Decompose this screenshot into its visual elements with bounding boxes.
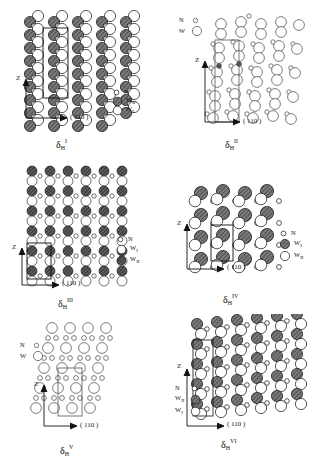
legend-label-n: N xyxy=(124,89,129,96)
panel-delta-H-V: Z ( 110 ) N W δHV xyxy=(0,314,161,472)
legend-1: N WII WI xyxy=(112,88,135,115)
caption-sup: V xyxy=(69,444,73,450)
legend-row: WI xyxy=(112,106,135,115)
axis-label-h-2: ( 110 ) xyxy=(243,117,261,125)
caption-sup: II xyxy=(234,138,238,144)
panel-caption-6: δHVI xyxy=(221,438,236,451)
legend-row: WII xyxy=(175,393,201,405)
swatch-w-icon xyxy=(191,25,203,37)
swatch-w2-icon xyxy=(279,250,291,262)
legend-row: WII xyxy=(116,255,139,266)
axis-label-z-2: Z xyxy=(195,56,199,64)
legend-row: WII xyxy=(279,250,303,262)
legend-row: WI xyxy=(175,405,201,417)
panel-delta-H-III: Z ( 110 ) N WI WII δHIII xyxy=(0,157,161,314)
legend-label-n: N xyxy=(175,385,187,392)
legend-label-w1: WI xyxy=(130,245,138,253)
legend-row: W xyxy=(20,350,44,362)
legend-label-w1: WI xyxy=(294,240,302,248)
legend-label-w2: WII xyxy=(175,395,187,403)
axis-label-h-1: ( 110 ) xyxy=(70,113,88,121)
panel-caption-2: δHII xyxy=(225,138,238,151)
legend-2: N W xyxy=(179,16,203,37)
swatch-n-icon xyxy=(191,16,200,25)
panel-delta-H-I: Z ( 110 ) N WII WI δHI xyxy=(0,0,161,157)
swatch-n-icon xyxy=(116,235,125,244)
axis-label-h-6: ( 110 ) xyxy=(227,420,245,428)
legend-label-n: N xyxy=(20,342,29,349)
legend-row: W xyxy=(179,25,203,37)
swatch-w-icon xyxy=(32,350,44,362)
swatch-w1-icon xyxy=(279,238,291,250)
panel-caption-5: δHV xyxy=(60,444,73,457)
axis-label-z-4: Z xyxy=(177,219,181,227)
caption-sub: H xyxy=(228,300,232,306)
swatch-w2-icon xyxy=(190,394,201,405)
structure-diagram-1 xyxy=(0,0,161,157)
panel-delta-H-VI: Z ( 110 ) N WII WI δHVI xyxy=(161,314,322,472)
swatch-w2-icon xyxy=(116,255,127,266)
axis-label-z-5: Z xyxy=(34,380,38,388)
panel-delta-H-IV: Z ( 110 ) N WI WII δHIV xyxy=(161,157,322,314)
caption-sub: H xyxy=(63,304,67,310)
legend-6: N WII WI xyxy=(175,384,201,417)
legend-row: N xyxy=(20,341,44,350)
axis-label-h-5: ( 110 ) xyxy=(80,421,98,429)
legend-row: WI xyxy=(279,238,303,250)
axis-label-h-4: ( 110 ) xyxy=(227,263,245,271)
axis-label-z-6: Z xyxy=(177,362,181,370)
caption-sub: H xyxy=(230,145,234,151)
axis-label-z-3: Z xyxy=(12,243,16,251)
legend-5: N W xyxy=(20,341,44,362)
legend-label-w1: WI xyxy=(175,407,187,415)
caption-sup: IV xyxy=(232,293,238,299)
legend-label-w1: WI xyxy=(126,106,134,114)
atom-group-3 xyxy=(27,166,127,286)
panel-caption-1: δHI xyxy=(56,138,67,151)
swatch-n-icon xyxy=(279,229,288,238)
legend-label-w2: WII xyxy=(130,256,139,264)
caption-sub: H xyxy=(65,451,69,457)
panel-caption-3: δHIII xyxy=(58,297,73,310)
legend-row: WI xyxy=(116,244,139,255)
caption-sup: VI xyxy=(230,438,236,444)
caption-sup: III xyxy=(67,297,73,303)
legend-label-n: N xyxy=(179,17,188,24)
atom-group-4 xyxy=(189,184,281,272)
atom-group-2 xyxy=(205,14,305,125)
axis-label-z-1: Z xyxy=(16,74,20,82)
legend-row: N xyxy=(116,235,139,244)
legend-label-w: W xyxy=(179,28,188,35)
swatch-w1-icon xyxy=(190,406,201,417)
legend-4: N WI WII xyxy=(279,229,303,262)
caption-sup: I xyxy=(65,138,67,144)
structure-diagram-5 xyxy=(0,314,161,472)
legend-3: N WI WII xyxy=(116,235,139,266)
caption-sub: H xyxy=(61,145,65,151)
panel-delta-H-II: Z ( 110 ) N W δHII xyxy=(161,0,322,157)
swatch-n-icon xyxy=(32,341,41,350)
atom-group-6 xyxy=(191,314,306,420)
swatch-w1-icon xyxy=(116,244,127,255)
panel-caption-4: δHIV xyxy=(223,293,238,306)
swatch-w1-icon xyxy=(112,105,123,116)
legend-row: N xyxy=(179,16,203,25)
caption-sub: H xyxy=(226,445,230,451)
legend-label-n: N xyxy=(291,230,296,237)
legend-label-w: W xyxy=(20,353,29,360)
swatch-n-icon xyxy=(190,384,199,393)
legend-label-w2: WII xyxy=(294,252,303,260)
axis-label-h-3: ( 110 ) xyxy=(62,279,80,287)
legend-row: N xyxy=(279,229,303,238)
legend-row: N xyxy=(175,384,201,393)
legend-label-n: N xyxy=(128,236,133,243)
